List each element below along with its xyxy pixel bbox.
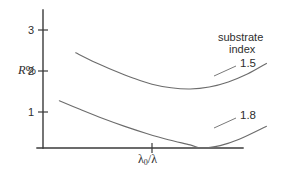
leader-line-1-5: [214, 66, 236, 76]
y-tick-label-1: 1: [28, 107, 34, 118]
leader-line-1-8: [214, 118, 236, 128]
y-axis-title: R%: [18, 64, 36, 77]
reflectance-chart-figure: 1 2 3 R% λ0/λ substrate index 1.5 1.8: [0, 0, 286, 178]
x-axis-title-rest: /λ: [148, 152, 157, 166]
curve-substrate-index-1-5: [76, 53, 267, 89]
series-label-1-5: 1.5: [240, 58, 256, 70]
curve-substrate-index-1-8: [59, 101, 266, 148]
y-axis-title-symbol: R: [18, 63, 26, 77]
x-axis-title-subscript: 0: [144, 158, 148, 167]
x-axis-title: λ0/λ: [138, 153, 157, 165]
legend-title-line-2: index: [229, 43, 255, 55]
series-label-1-8: 1.8: [240, 110, 256, 122]
y-tick-label-3: 3: [28, 25, 34, 36]
y-axis-title-unit: %: [26, 64, 36, 76]
x-axis-title-lambda: λ: [138, 152, 144, 166]
legend-title-line-1: substrate: [218, 31, 263, 43]
